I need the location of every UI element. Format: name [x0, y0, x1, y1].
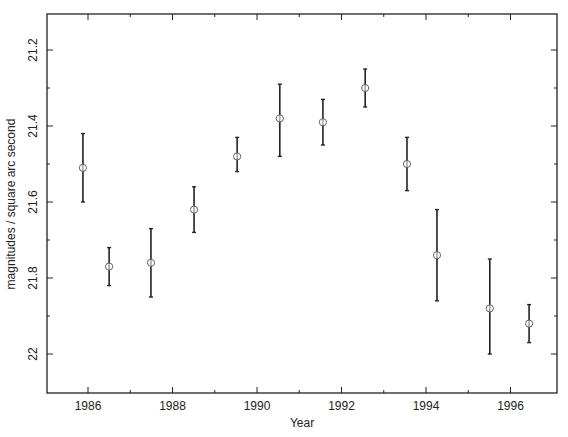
y-tick-labels: 21.221.421.621.822	[26, 38, 40, 361]
open-circle-marker	[486, 305, 493, 312]
data-point	[403, 137, 410, 190]
open-circle-marker	[433, 252, 440, 259]
data-point	[319, 99, 326, 145]
open-circle-marker	[190, 206, 197, 213]
data-point	[276, 84, 283, 156]
data-point	[486, 259, 493, 354]
x-tick-labels: 198619881990199219941996	[75, 399, 525, 413]
x-tick-label: 1990	[244, 399, 271, 413]
data-point	[147, 229, 154, 297]
open-circle-marker	[106, 263, 113, 270]
data-point	[362, 69, 369, 107]
data-point	[79, 134, 86, 202]
open-circle-marker	[147, 259, 154, 266]
y-tick-label: 22	[26, 347, 40, 361]
x-axis-label: Year	[290, 416, 314, 430]
data-point	[106, 248, 113, 286]
open-circle-marker	[403, 160, 410, 167]
x-tick-label: 1994	[413, 399, 440, 413]
x-tick-label: 1988	[159, 399, 186, 413]
data-points	[79, 69, 532, 354]
y-tick-label: 21.8	[26, 266, 40, 290]
open-circle-marker	[525, 320, 532, 327]
axis-ticks	[47, 14, 557, 393]
y-tick-label: 21.2	[26, 38, 40, 62]
x-tick-label: 1992	[328, 399, 355, 413]
open-circle-marker	[79, 164, 86, 171]
errorbar-chart: 198619881990199219941996 21.221.421.621.…	[0, 0, 568, 437]
x-tick-label: 1996	[497, 399, 524, 413]
y-tick-label: 21.4	[26, 114, 40, 138]
y-tick-label: 21.6	[26, 190, 40, 214]
x-tick-label: 1986	[75, 399, 102, 413]
open-circle-marker	[234, 153, 241, 160]
open-circle-marker	[362, 84, 369, 91]
data-point	[525, 305, 532, 343]
data-point	[234, 137, 241, 171]
y-axis-label: magnitudes / square arc second	[4, 119, 18, 290]
open-circle-marker	[319, 119, 326, 126]
plot-frame	[47, 14, 557, 393]
data-point	[433, 210, 440, 301]
data-point	[190, 187, 197, 233]
open-circle-marker	[276, 115, 283, 122]
chart-container: 198619881990199219941996 21.221.421.621.…	[0, 0, 568, 437]
